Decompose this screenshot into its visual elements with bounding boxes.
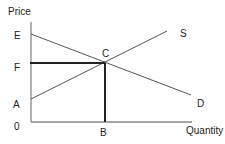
supply-label: S xyxy=(180,28,187,39)
point-label-e: E xyxy=(14,30,21,41)
x-axis-label: Quantity xyxy=(186,125,223,136)
supply-demand-diagram: Price Quantity 0 E F A C B S D xyxy=(0,0,225,144)
y-axis-label: Price xyxy=(8,6,31,17)
supply-curve xyxy=(31,31,167,99)
point-label-b: B xyxy=(100,127,107,138)
demand-curve xyxy=(31,34,191,95)
demand-label: D xyxy=(197,98,204,109)
point-label-a: A xyxy=(13,99,20,110)
origin-label: 0 xyxy=(14,121,20,132)
point-label-c: C xyxy=(102,48,109,59)
point-label-f: F xyxy=(14,62,20,73)
